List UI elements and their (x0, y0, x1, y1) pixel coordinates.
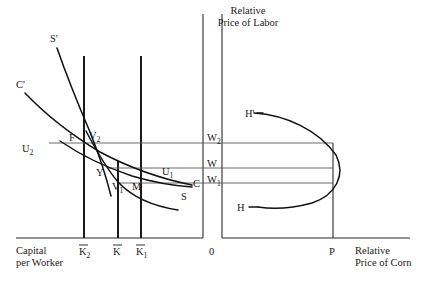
right-panel-x-axis-label: Relative Price of Corn (355, 245, 412, 268)
tick-label-k1: K1 (136, 246, 148, 260)
title-line-2: Price of Labor (218, 17, 279, 28)
left-panel-x-axis-label: Capital per Worker (16, 245, 64, 268)
tick-label-kbar: K (113, 246, 121, 257)
curve-label-h-prime: H' (245, 108, 255, 119)
point-label-v2: V2 (89, 130, 101, 144)
chart-title: Relative Price of Labor (218, 5, 279, 28)
left-axis-label-line-1: Capital (16, 245, 46, 256)
curve-label-c: C (193, 178, 200, 189)
curve-label-s: S (181, 191, 187, 202)
point-label-y: Y (96, 167, 104, 178)
right-axis-label-line-1: Relative (355, 245, 390, 256)
right-axis-label-line-2: Price of Corn (355, 257, 412, 268)
capital-tick-labels: K2 K K1 (79, 245, 148, 260)
curve-label-c-prime: C' (16, 79, 25, 90)
title-line-1: Relative (231, 5, 266, 16)
curve-label-h: H (237, 202, 245, 213)
tick-label-k2: K2 (79, 246, 91, 260)
wage-label-w2: W2 (207, 132, 221, 146)
left-axis-label-line-2: per Worker (16, 257, 64, 268)
left-panel-axes (16, 14, 203, 238)
wage-label-w1: W1 (207, 174, 221, 188)
point-label-f: F (69, 132, 75, 143)
right-panel-curve-labels: H' H (237, 108, 255, 213)
tick-label-p: P (329, 246, 335, 257)
diagram-canvas: Relative Price of Labor Capital per Work… (0, 0, 434, 288)
wage-horizontal-lines (49, 143, 333, 183)
point-label-m: M (132, 181, 142, 192)
wage-label-w: W (207, 158, 217, 169)
economics-diagram-figure: Relative Price of Labor Capital per Work… (0, 0, 434, 288)
wage-level-labels: W2 W W1 (207, 132, 221, 188)
curve-label-u2: U2 (22, 143, 34, 157)
curve-h-backward-bending (254, 113, 340, 208)
curve-label-s-prime: S' (50, 33, 58, 44)
origin-label-zero: 0 (209, 246, 214, 257)
left-panel-curve-labels: S' C' S C U2 U1 (16, 33, 200, 202)
right-panel-axes (222, 14, 410, 238)
